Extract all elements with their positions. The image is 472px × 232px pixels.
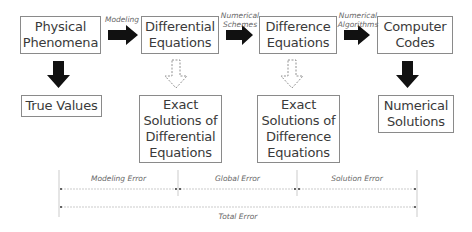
label-solution-error: Solution Error: [297, 174, 417, 183]
arrow-down-icon: [47, 61, 419, 88]
label-modeling: Modeling: [102, 15, 142, 24]
box-computer-codes: Computer Codes: [377, 16, 453, 54]
label-global-error: Global Error: [178, 174, 297, 183]
label-total-error: Total Error: [59, 212, 417, 221]
label-numerical-algorithms: Numerical Algorithms: [336, 11, 380, 29]
box-true-values: True Values: [21, 95, 102, 117]
box-exact-solutions-differential: Exact Solutions of Differential Equation…: [139, 95, 222, 163]
label-modeling-error: Modeling Error: [59, 174, 178, 183]
box-difference-equations: Difference Equations: [259, 16, 337, 54]
label-numerical-schemes: Numerical Schemes: [218, 11, 262, 29]
box-numerical-solutions: Numerical Solutions: [378, 95, 454, 133]
dashed-arrow-down-icon: [165, 60, 303, 88]
box-exact-solutions-difference: Exact Solutions of Difference Equations: [257, 95, 340, 163]
box-differential-equations: Differential Equations: [141, 16, 219, 54]
box-physical-phenomena: Physical Phenomena: [20, 16, 101, 54]
